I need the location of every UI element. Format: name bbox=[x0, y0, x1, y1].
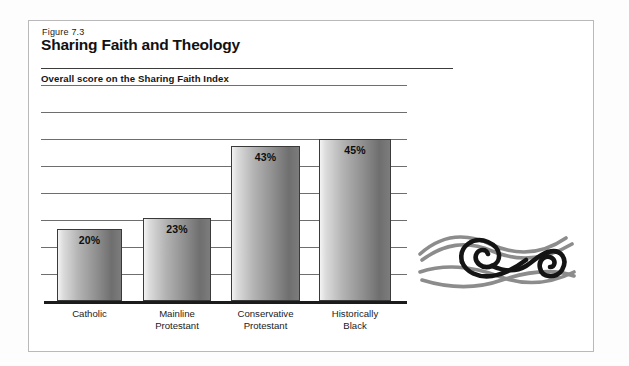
category-label: MainlineProtestant bbox=[129, 308, 225, 332]
category-label-line: Catholic bbox=[43, 308, 136, 320]
category-label: ConservativeProtestant bbox=[217, 308, 314, 332]
brush-spiral-ornament-icon bbox=[414, 210, 580, 302]
category-label-line: Historically bbox=[305, 308, 405, 320]
bar-value-label: 43% bbox=[232, 151, 299, 163]
bar: 20% bbox=[57, 229, 122, 301]
title-divider bbox=[41, 68, 453, 69]
gridline bbox=[41, 112, 407, 113]
bar: 43% bbox=[231, 146, 300, 301]
category-label-line: Mainline bbox=[129, 308, 225, 320]
bar-value-label: 23% bbox=[144, 223, 210, 235]
chart-subtitle: Overall score on the Sharing Faith Index bbox=[41, 73, 229, 84]
bar-value-label: 20% bbox=[58, 234, 121, 246]
page-title: Sharing Faith and Theology bbox=[41, 36, 240, 54]
gridline bbox=[41, 85, 407, 86]
category-label-line: Black bbox=[305, 320, 405, 332]
x-axis-baseline bbox=[44, 301, 407, 304]
category-label-line: Protestant bbox=[217, 320, 314, 332]
category-label: HistoricallyBlack bbox=[305, 308, 405, 332]
bar-chart: 20%23%43%45% bbox=[41, 85, 413, 307]
figure-page: Figure 7.3 Sharing Faith and Theology Ov… bbox=[0, 0, 629, 366]
category-label-line: Protestant bbox=[129, 320, 225, 332]
bar: 23% bbox=[143, 218, 211, 301]
category-label-line: Conservative bbox=[217, 308, 314, 320]
category-label: Catholic bbox=[43, 308, 136, 320]
bar-value-label: 45% bbox=[320, 144, 390, 156]
bar: 45% bbox=[319, 139, 391, 301]
